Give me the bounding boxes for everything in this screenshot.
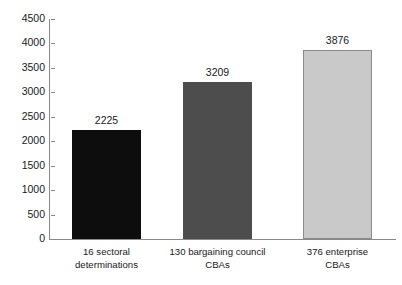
bar-chart: 050010001500200025003000350040004500 222… — [0, 0, 402, 285]
bar-group: 2225 — [72, 19, 141, 239]
y-axis-tick-label: 3000 — [22, 85, 45, 97]
y-axis-tick-label: 1000 — [22, 183, 45, 195]
x-axis-category-label: 376 enterpriseCBAs — [268, 246, 402, 271]
bar-value-label: 3209 — [169, 66, 266, 78]
bar[interactable] — [303, 50, 372, 239]
bar-group: 3876 — [303, 19, 372, 239]
x-axis-category-label: 130 bargaining councilCBAs — [148, 246, 288, 271]
category-label-line-2: CBAs — [268, 259, 402, 272]
x-axis-line — [49, 239, 396, 240]
y-axis-tick-label: 3500 — [22, 61, 45, 73]
y-axis-tick-label: 4000 — [22, 36, 45, 48]
bar[interactable] — [72, 130, 141, 239]
y-axis-tick-label: 4500 — [22, 12, 45, 24]
plot-area: 222532093876 — [50, 19, 396, 239]
bar-value-label: 2225 — [58, 114, 155, 126]
bar-value-label: 3876 — [289, 34, 386, 46]
bar[interactable] — [183, 82, 252, 239]
y-axis-tick-label: 1500 — [22, 159, 45, 171]
category-label-line-1: 130 bargaining council — [148, 246, 288, 259]
y-axis-tick-label: 500 — [27, 208, 45, 220]
y-axis-tick-label: 2000 — [22, 134, 45, 146]
category-label-line-1: 376 enterprise — [268, 246, 402, 259]
y-axis-tick-label: 2500 — [22, 110, 45, 122]
bar-group: 3209 — [183, 19, 252, 239]
y-axis-tick-label: 0 — [39, 232, 45, 244]
category-label-line-2: CBAs — [148, 259, 288, 272]
